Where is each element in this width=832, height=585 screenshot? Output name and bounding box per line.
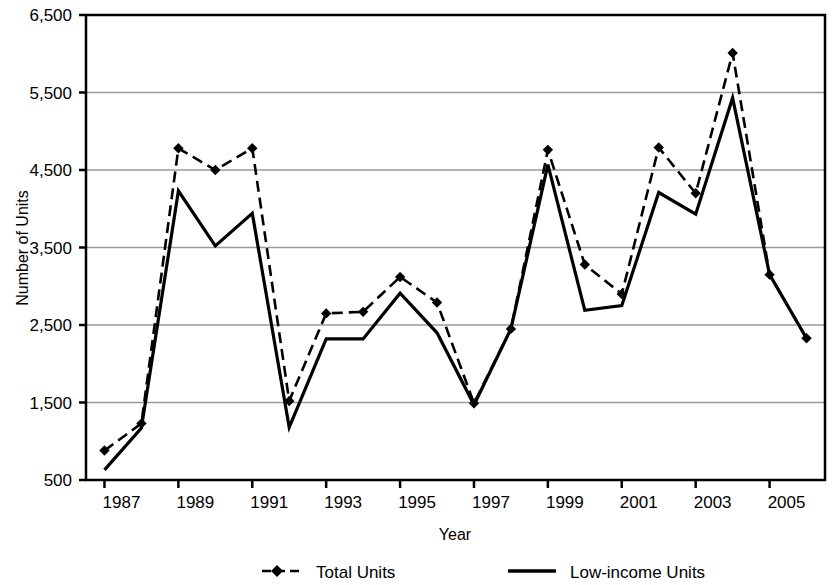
data-point-marker: [321, 308, 331, 318]
x-tick-label: 1989: [176, 493, 214, 512]
y-axis-tick-labels: 5001,5002,5003,5004,5005,5006,500: [29, 6, 72, 490]
x-tick-label: 1993: [324, 493, 362, 512]
legend-label-total-units: Total Units: [316, 563, 395, 582]
y-tick-label: 5,500: [29, 84, 72, 103]
y-tick-label: 6,500: [29, 6, 72, 25]
data-point-marker: [580, 259, 590, 269]
legend-item-low-income-units: Low-income Units: [508, 563, 705, 582]
x-tick-label: 1997: [472, 493, 510, 512]
chart-legend: Total Units Low-income Units: [262, 563, 705, 582]
x-tick-label: 1999: [546, 493, 584, 512]
y-tick-label: 3,500: [29, 239, 72, 258]
y-axis-title: Number of Units: [14, 190, 31, 306]
data-point-marker: [727, 48, 737, 58]
data-point-marker: [543, 145, 553, 155]
x-tick-label: 2005: [768, 493, 806, 512]
x-axis-tick-labels: 1987198919911993199519971999200120032005: [103, 493, 806, 512]
x-tick-label: 1991: [250, 493, 288, 512]
y-tick-label: 2,500: [29, 316, 72, 335]
gridlines: [86, 93, 825, 403]
data-series-group: [99, 48, 811, 470]
data-point-marker: [247, 143, 257, 153]
x-tick-label: 2001: [620, 493, 658, 512]
legend-item-total-units: Total Units: [262, 563, 395, 582]
y-tick-label: 500: [44, 471, 72, 490]
x-tick-label: 1987: [103, 493, 141, 512]
x-tick-label: 1995: [398, 493, 436, 512]
legend-swatch-diamond-marker: [271, 565, 283, 577]
y-tick-label: 4,500: [29, 161, 72, 180]
line-chart: 5001,5002,5003,5004,5005,5006,500 198719…: [0, 0, 832, 585]
data-point-marker: [210, 165, 220, 175]
series-line-total-units: [105, 53, 807, 451]
chart-container: 5001,5002,5003,5004,5005,5006,500 198719…: [0, 0, 832, 585]
series-line-low-income-units: [105, 98, 807, 470]
y-tick-label: 1,500: [29, 394, 72, 413]
x-axis-title: Year: [439, 526, 472, 543]
legend-label-low-income-units: Low-income Units: [570, 563, 705, 582]
data-point-marker: [173, 143, 183, 153]
x-tick-label: 2003: [694, 493, 732, 512]
